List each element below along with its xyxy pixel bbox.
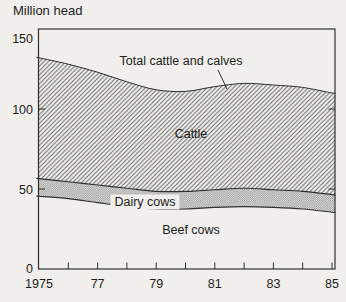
chart-title: Million head xyxy=(13,4,82,18)
x-axis-tick-label: 79 xyxy=(149,277,163,291)
y-axis-tick-label: 100 xyxy=(12,103,33,117)
chart-canvas xyxy=(0,0,346,302)
x-axis-tick-label: 85 xyxy=(325,277,339,291)
annotation-beef-cows-label: Beef cows xyxy=(162,223,220,237)
annotation-cattle-label: Cattle xyxy=(175,127,208,141)
y-axis-tick-label: 0 xyxy=(26,262,33,276)
y-axis-tick-label: 150 xyxy=(12,32,33,46)
cattle-inventory-area-chart: Million head 05010015019757779818385Tota… xyxy=(0,0,346,302)
x-axis-tick-label: 81 xyxy=(208,277,222,291)
y-axis-tick-label: 50 xyxy=(19,183,33,197)
annotation-dairy-cows-label: Dairy cows xyxy=(110,195,179,210)
x-axis-tick-label: 77 xyxy=(91,277,105,291)
x-axis-tick-label: 1975 xyxy=(25,277,53,291)
annotation-total-cattle-label: Total cattle and calves xyxy=(120,54,243,68)
x-axis-tick-label: 83 xyxy=(266,277,280,291)
